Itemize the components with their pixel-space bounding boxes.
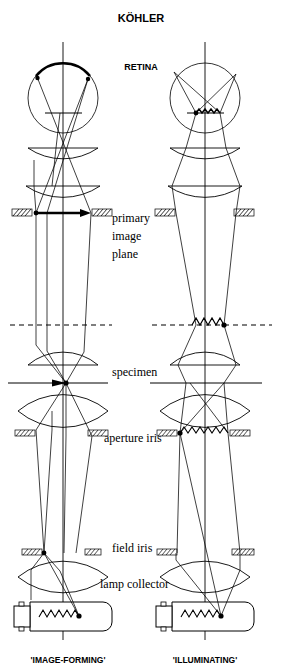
primary-image-arrow-head-left	[80, 209, 91, 217]
ray-right-6	[180, 383, 186, 433]
filament-image-aperture-right	[180, 427, 228, 433]
specimen-plane-left	[8, 380, 108, 387]
lamp-base-pip-top-right	[161, 602, 166, 606]
primary-image-plane-label-line3: plane	[112, 247, 138, 261]
lamp-right	[156, 602, 254, 631]
ray-right-10	[172, 186, 196, 325]
lamp-base-left	[14, 606, 30, 627]
ray-right-14	[174, 72, 196, 113]
ray-left-7	[44, 411, 52, 553]
ray-left-11	[34, 160, 36, 213]
ray-left-1	[36, 79, 88, 383]
ray-left-9	[64, 383, 66, 553]
lamp-base-pip-bottom-right	[161, 627, 166, 631]
ray-right-9	[224, 325, 236, 383]
ray-right-17	[174, 72, 220, 113]
ray-left-8	[66, 383, 92, 553]
retina-label: RETINA	[124, 62, 158, 72]
ray-right-12	[172, 113, 196, 186]
ray-right-11	[224, 186, 240, 325]
column-caption-image-forming: 'IMAGE-FORMING'	[31, 655, 106, 665]
ray-right-16	[196, 74, 236, 113]
ray-left-2	[47, 79, 88, 383]
specimen-label: specimen	[112, 365, 157, 379]
ray-right-4	[177, 383, 224, 553]
column-caption-illuminating: 'ILLUMINATING'	[173, 655, 237, 665]
ray-left-3	[38, 78, 92, 383]
aperture-iris-left	[15, 430, 108, 436]
aperture-iris-label: aperture iris	[104, 431, 162, 445]
filament-image-bfp-right	[192, 318, 224, 325]
aperture-iris-right	[157, 427, 250, 436]
ray-right-7	[224, 383, 228, 433]
ray-right-15	[220, 74, 236, 113]
column-illuminating	[150, 42, 272, 640]
field-iris-label: field iris	[112, 541, 153, 555]
ray-right-5	[190, 383, 240, 553]
ray-right-8	[178, 325, 196, 383]
kohler-illumination-figure: KÖHLER RETINA primary image plane specim…	[0, 0, 282, 669]
primary-image-plane-left	[12, 209, 112, 217]
primary-image-plane-label-line1: primary	[112, 211, 150, 225]
lamp-collector-label: lamp collector	[100, 577, 169, 591]
primary-image-plane-label-line2: image	[112, 229, 141, 243]
lamp-base-right	[156, 606, 172, 627]
column-image-forming	[8, 42, 112, 640]
ray-left-6	[36, 383, 79, 616]
ray-right-2	[180, 433, 221, 616]
lamp-base-pip-top-left	[19, 602, 24, 606]
lamp-left	[14, 602, 112, 631]
optical-diagram-svg: KÖHLER RETINA primary image plane specim…	[0, 0, 282, 669]
lamp-base-pip-bottom-left	[19, 627, 24, 631]
ray-left-4	[31, 553, 44, 600]
field-iris-left	[22, 549, 101, 555]
figure-title: KÖHLER	[118, 12, 165, 24]
primary-image-plane-right	[155, 209, 254, 216]
